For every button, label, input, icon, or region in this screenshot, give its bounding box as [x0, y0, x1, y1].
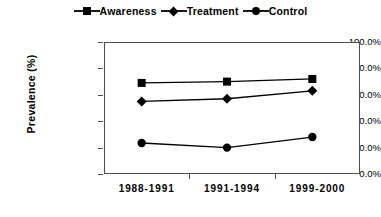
legend-label-control: Control [269, 5, 308, 17]
y-tick-mark [98, 148, 103, 149]
legend-entry-awareness: Awareness [74, 5, 157, 17]
legend-label-treatment: Treatment [187, 5, 239, 17]
y-tick-mark [98, 42, 103, 43]
y-tick-mark [98, 174, 103, 175]
legend-label-awareness: Awareness [100, 5, 157, 17]
x-tick-label: 1999-2000 [267, 183, 367, 194]
legend-entry-control: Control [243, 5, 308, 17]
y-tick-mark [98, 121, 103, 122]
legend-entry-treatment: Treatment [161, 5, 239, 17]
square-marker-icon [74, 5, 100, 17]
chart-legend: Awareness Treatment Control [0, 2, 381, 20]
y-axis-title: Prevalence (%) [25, 39, 37, 149]
diamond-marker-icon [161, 5, 187, 17]
x-tick-mark [189, 174, 190, 179]
prevalence-line-chart: Awareness Treatment Control Prevalence (… [0, 0, 381, 217]
plot-area [104, 42, 360, 174]
circle-marker-icon [243, 5, 269, 17]
x-tick-mark [275, 174, 276, 179]
y-tick-mark [98, 95, 103, 96]
y-tick-mark [98, 68, 103, 69]
